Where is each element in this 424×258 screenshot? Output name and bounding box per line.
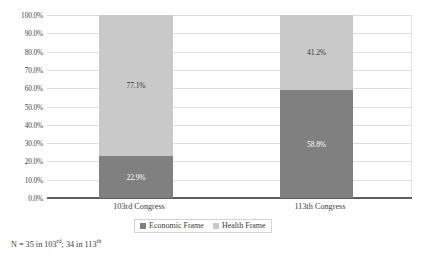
chart-legend: Economic Frame Health Frame [134, 219, 272, 233]
bar-segment-economic-frame[interactable]: 22.9% [99, 156, 173, 198]
legend-label: Economic Frame [149, 221, 204, 230]
y-tick-label: 90.0% [3, 29, 43, 38]
legend-item-economic-frame[interactable]: Economic Frame [140, 221, 204, 230]
dark-swatch-icon [140, 223, 146, 229]
y-tick-label: 100.0% [3, 11, 43, 20]
footnote-prefix: N = 35 in 103 [11, 240, 57, 249]
bar-segment-economic-frame[interactable]: 58.8% [280, 90, 353, 198]
y-tick-label: 40.0% [3, 120, 43, 129]
y-tick-label: 80.0% [3, 47, 43, 56]
y-tick-label: 30.0% [3, 139, 43, 148]
chart-footnote: N = 35 in 103rd; 34 in 113th [11, 240, 101, 249]
legend-item-health-frame[interactable]: Health Frame [213, 221, 266, 230]
footnote-middle: ; 34 in 113 [62, 240, 97, 249]
light-swatch-icon [213, 223, 219, 229]
bar-value-label: 58.8% [307, 140, 326, 149]
y-tick-label: 0.0% [3, 194, 43, 203]
bar-value-label: 22.9% [126, 173, 145, 182]
y-tick-label: 70.0% [3, 65, 43, 74]
y-tick-label: 10.0% [3, 175, 43, 184]
x-axis-category-label-103rd: 103rd Congress [59, 202, 219, 211]
bar-value-label: 41.2% [307, 48, 326, 57]
y-tick-label: 60.0% [3, 84, 43, 93]
legend-label: Health Frame [222, 221, 266, 230]
bar-value-label: 77.1% [126, 81, 145, 90]
y-tick-label: 20.0% [3, 157, 43, 166]
plot-area: 77.1% 22.9% 41.2% 58.8% [47, 15, 412, 198]
stacked-bar-chart: 100.0% 90.0% 80.0% 70.0% 60.0% 50.0% 40.… [0, 0, 424, 258]
x-axis-category-label-113th: 113th Congress [240, 202, 400, 211]
bar-segment-health-frame[interactable]: 77.1% [99, 15, 173, 156]
bar-103rd-congress[interactable]: 77.1% 22.9% [99, 15, 173, 198]
bar-segment-health-frame[interactable]: 41.2% [280, 15, 353, 90]
bar-113th-congress[interactable]: 41.2% 58.8% [280, 15, 353, 198]
footnote-ordinal-th: th [97, 238, 102, 244]
y-tick-label: 50.0% [3, 102, 43, 111]
